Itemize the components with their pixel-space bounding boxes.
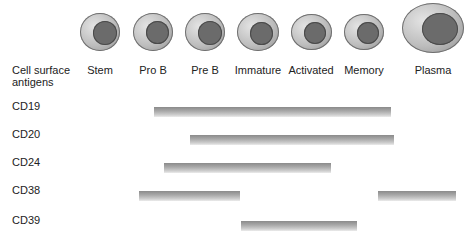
nucleus-icon bbox=[304, 22, 326, 44]
expression-bar bbox=[164, 163, 331, 173]
header-line1: Cell surface bbox=[12, 64, 70, 76]
expression-bar bbox=[190, 135, 394, 145]
antigen-label: CD19 bbox=[12, 100, 40, 112]
cell-icon-pro-b bbox=[133, 13, 173, 51]
antigen-label: CD38 bbox=[12, 184, 40, 196]
nucleus-icon bbox=[422, 13, 458, 45]
nucleus-icon bbox=[198, 21, 222, 45]
cell-icon-activated bbox=[291, 14, 332, 50]
header-line2: antigens bbox=[12, 76, 70, 88]
expression-bar bbox=[154, 107, 391, 117]
cell-icon-plasma bbox=[402, 3, 464, 53]
stage-label: Memory bbox=[329, 64, 399, 76]
nucleus-icon bbox=[357, 22, 379, 44]
stage-label: Plasma bbox=[398, 64, 467, 76]
expression-bar bbox=[378, 191, 456, 201]
nucleus-icon bbox=[146, 21, 169, 44]
expression-bar bbox=[139, 191, 240, 201]
nucleus-icon bbox=[250, 22, 273, 45]
antigen-label: CD24 bbox=[12, 156, 40, 168]
cell-surface-antigens-header: Cell surface antigens bbox=[12, 64, 70, 88]
cell-icon-memory bbox=[344, 14, 384, 50]
expression-bar bbox=[241, 221, 357, 231]
antigen-label: CD20 bbox=[12, 128, 40, 140]
cell-icon-immature bbox=[237, 13, 279, 51]
cell-icon-pre-b bbox=[185, 13, 225, 51]
cell-icon-stem bbox=[80, 13, 120, 51]
antigen-label: CD39 bbox=[12, 214, 40, 226]
nucleus-icon bbox=[93, 21, 117, 45]
